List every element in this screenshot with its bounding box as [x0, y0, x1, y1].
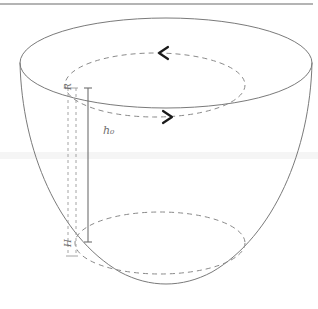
height-label: h₀: [103, 124, 115, 137]
bowl-diagram-svg: h₀ R H: [0, 0, 318, 309]
page-scan-band: [0, 152, 318, 159]
figure-container: h₀ R H: [0, 0, 318, 309]
depth-label: H: [63, 239, 73, 248]
radius-label: R: [63, 83, 73, 91]
